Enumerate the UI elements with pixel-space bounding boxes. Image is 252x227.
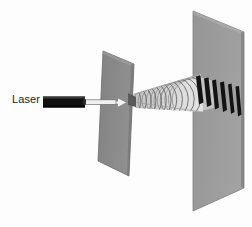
laser-label: Laser bbox=[12, 93, 40, 106]
laser-source bbox=[43, 97, 86, 108]
incident-beam bbox=[84, 100, 116, 105]
slit-screen bbox=[98, 51, 134, 176]
diagram-canvas: Laser bbox=[0, 0, 252, 227]
diagram-svg bbox=[0, 0, 252, 227]
